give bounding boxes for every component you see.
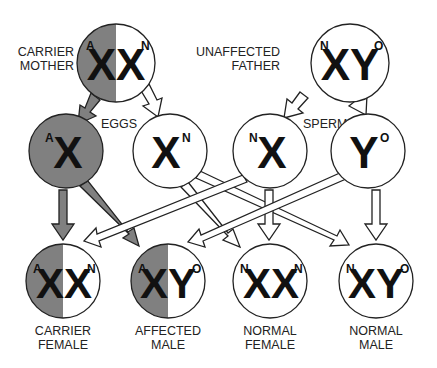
offspring-label-line2: FEMALE	[245, 338, 295, 352]
father-label-line2: FATHER	[232, 59, 280, 73]
offspring-carrier-female: A XX N CARRIER FEMALE	[26, 244, 100, 352]
sperm-y-allele: O	[380, 131, 389, 145]
father-allele-right: O	[374, 39, 383, 53]
egg-normal-allele: N	[182, 131, 191, 145]
mother-genotype: XX	[87, 40, 146, 89]
offspring-genotype: XY	[348, 260, 404, 307]
offspring-label-line1: AFFECTED	[135, 324, 201, 338]
egg-normal: X N	[133, 114, 207, 188]
offspring-label-line2: MALE	[151, 338, 185, 352]
eggs-label: EGGS	[101, 117, 137, 131]
arrow-egg-affected-to-carrier-female	[52, 190, 74, 240]
sperm-x: N X	[233, 114, 307, 188]
offspring-label-line1: CARRIER	[35, 324, 91, 338]
unaffected-father: N XY O UNAFFECTED FATHER	[196, 24, 389, 102]
sperm-y-chromosome: Y	[349, 128, 378, 177]
offspring-allele-right: N	[87, 262, 96, 276]
mother-label-line1: CARRIER	[18, 45, 74, 59]
carrier-mother: A XX N CARRIER MOTHER	[18, 24, 155, 102]
offspring-label-line1: NORMAL	[243, 324, 297, 338]
offspring-label-line2: MALE	[359, 338, 393, 352]
arrow-father-to-sperm-x	[284, 92, 308, 118]
sperm-x-chromosome: X	[257, 128, 286, 177]
offspring-allele-right: O	[192, 262, 201, 276]
x-linked-inheritance-diagram: A XX N CARRIER MOTHER N XY O UNAFFECTED …	[0, 0, 437, 368]
egg-normal-chromosome: X	[151, 128, 180, 177]
egg-affected-chromosome: X	[53, 128, 82, 177]
father-genotype: XY	[321, 40, 380, 89]
mother-allele-right: N	[141, 39, 150, 53]
offspring-genotype: XX	[36, 260, 92, 307]
mother-label-line2: MOTHER	[20, 59, 74, 73]
sperm-y: Y O	[331, 114, 405, 188]
offspring-allele-right: N	[294, 262, 303, 276]
offspring-genotype: XX	[243, 260, 299, 307]
offspring-normal-male: N XY O NORMAL MALE	[339, 244, 413, 352]
offspring-label-line2: FEMALE	[38, 338, 88, 352]
offspring-normal-female: N XX N NORMAL FEMALE	[233, 244, 307, 352]
offspring-genotype: XY	[140, 260, 196, 307]
offspring-label-line1: NORMAL	[349, 324, 403, 338]
offspring-affected-male: A XY O AFFECTED MALE	[131, 244, 205, 352]
egg-affected: A X	[29, 114, 103, 188]
arrow-sperm-y-to-normal-male	[365, 190, 387, 240]
father-label-line1: UNAFFECTED	[196, 45, 280, 59]
offspring-allele-right: O	[400, 262, 409, 276]
